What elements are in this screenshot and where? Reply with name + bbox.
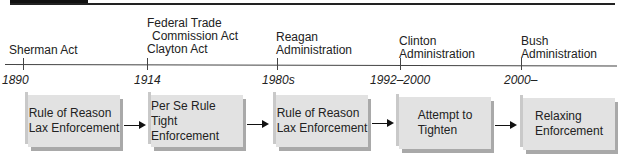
box-line: Per Se Rule: [151, 99, 243, 114]
header-rule: [10, 3, 615, 5]
era-box-per-se-1914: Per Se Rule Tight Enforcement: [151, 95, 243, 147]
era-box-relaxing: Relaxing Enforcement: [523, 98, 615, 150]
era-box-rule-of-reason-1890: Rule of Reason Lax Enforcement: [28, 95, 120, 147]
era-box-attempt-tighten: Attempt to Tighten: [399, 97, 491, 149]
box-line: Relaxing: [535, 109, 603, 124]
year-label: 1980s: [262, 73, 295, 87]
arrow-right-icon: [247, 124, 267, 125]
event-label-line: Sherman Act: [9, 44, 78, 57]
box-line: Rule of Reason: [277, 106, 368, 121]
timeline-axis: [5, 64, 617, 67]
event-label-bush: Bush Administration: [521, 35, 597, 61]
event-label-ftc-clayton: Federal Trade Commission Act Clayton Act: [147, 17, 238, 56]
arrow-right-icon: [124, 125, 144, 126]
box-line: Tight Enforcement: [151, 114, 243, 144]
year-label: 1890: [2, 73, 29, 87]
event-label-line: Administration: [399, 48, 475, 61]
timeline-tick: [147, 58, 148, 70]
event-label-line: Administration: [521, 48, 597, 61]
event-label-line: Administration: [276, 44, 352, 57]
year-label: 1914: [134, 73, 161, 87]
year-label: 1992–2000: [370, 73, 430, 87]
timeline-tick: [400, 58, 401, 70]
era-box-rule-of-reason-1980s: Rule of Reason Lax Enforcement: [276, 95, 368, 147]
box-line: Rule of Reason: [29, 106, 120, 121]
box-line: Enforcement: [535, 124, 603, 139]
box-line: Lax Enforcement: [29, 121, 120, 136]
arrow-right-icon: [372, 123, 392, 124]
timeline-tick: [521, 58, 522, 70]
box-line: Tighten: [418, 123, 473, 138]
year-label: 2000–: [504, 73, 537, 87]
box-line: Lax Enforcement: [277, 121, 368, 136]
event-label-line: Clayton Act: [147, 43, 238, 56]
event-label-clinton: Clinton Administration: [399, 35, 475, 61]
event-label-sherman: Sherman Act: [9, 44, 78, 57]
event-label-reagan: Reagan Administration: [276, 31, 352, 57]
timeline-tick: [277, 58, 278, 70]
timeline-tick: [23, 58, 24, 70]
box-line: Attempt to: [418, 108, 473, 123]
arrow-right-icon: [495, 125, 515, 126]
